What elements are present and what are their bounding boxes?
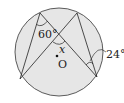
geometry-diagram: 60° x O 24° xyxy=(0,0,124,103)
angle-label-24: 24° xyxy=(106,49,124,60)
center-label-o: O xyxy=(58,59,67,70)
angle-label-x: x xyxy=(59,44,65,55)
angle-label-60: 60° xyxy=(38,29,58,40)
center-point xyxy=(56,55,59,58)
